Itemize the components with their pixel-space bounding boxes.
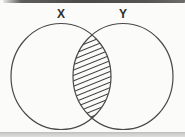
- venn-diagram-svg: X Y: [0, 0, 185, 137]
- venn-diagram-figure: X Y: [0, 0, 185, 137]
- bottom-scan-edge-artifact: [0, 132, 185, 137]
- left-circle-label: X: [57, 7, 65, 21]
- right-circle-label: Y: [119, 7, 127, 21]
